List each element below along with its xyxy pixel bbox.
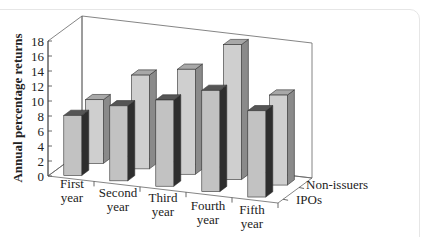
bar-front xyxy=(202,90,220,191)
y-tick-label: 14 xyxy=(31,64,45,79)
bar-non-issuers xyxy=(85,94,110,163)
y-axis-label: Annual percentage returns xyxy=(10,33,25,182)
bar-side xyxy=(149,70,156,169)
series-labels: IPOsNon-issuers xyxy=(283,177,368,207)
bar-non-issuers xyxy=(223,39,248,179)
y-tick-label: 0 xyxy=(38,169,45,184)
y-tick-label: 16 xyxy=(31,49,45,64)
bar-side xyxy=(174,95,181,186)
y-tick-label: 4 xyxy=(38,139,45,154)
y-tick-label: 12 xyxy=(31,79,44,94)
bar-side xyxy=(103,94,110,163)
y-tick-label: 8 xyxy=(38,109,45,124)
bar-ipos xyxy=(202,85,227,192)
bar-ipos xyxy=(248,106,273,198)
bar-non-issuers xyxy=(269,90,294,185)
bar-front xyxy=(248,111,266,197)
y-tick-label: 2 xyxy=(38,154,45,169)
x-category-label: Fifthyear xyxy=(239,202,265,231)
bar-ipos xyxy=(156,95,181,187)
bar-front xyxy=(64,115,82,175)
bar-chart-3d: 024681012141618 FirstyearSecondyearThird… xyxy=(0,0,429,237)
bar-side xyxy=(82,110,89,175)
x-category-label: Secondyear xyxy=(99,185,138,214)
x-category-label: Firstyear xyxy=(60,176,84,205)
series-label-ipos: IPOs xyxy=(296,192,322,207)
depth-tick xyxy=(283,199,288,200)
bar-front xyxy=(156,100,174,186)
series-label-non-issuers: Non-issuers xyxy=(306,177,368,192)
bar-non-issuers xyxy=(177,64,202,174)
bar-ipos xyxy=(110,101,135,181)
depth-tick xyxy=(299,188,304,189)
bar-side xyxy=(220,85,227,192)
y-tick-label: 10 xyxy=(31,94,44,109)
bar-side xyxy=(287,90,294,185)
bar-side xyxy=(195,64,202,174)
y-tick-label: 18 xyxy=(31,34,44,49)
x-category-label: Fourthyear xyxy=(191,198,226,227)
bar-side xyxy=(266,106,273,198)
y-axis: 024681012141618 xyxy=(31,34,52,184)
bar-side xyxy=(241,39,248,179)
y-tick-label: 6 xyxy=(38,124,45,139)
x-category-label: Thirdyear xyxy=(149,190,178,219)
bar-non-issuers xyxy=(131,70,156,169)
bar-front xyxy=(110,106,128,181)
bar-side xyxy=(128,101,135,181)
bar-ipos xyxy=(64,110,89,175)
